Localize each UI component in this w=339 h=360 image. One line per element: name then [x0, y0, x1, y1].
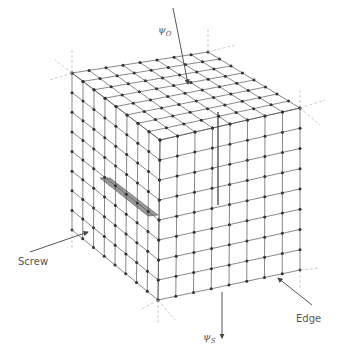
screw-label: Screw	[18, 256, 48, 267]
left-face	[71, 72, 162, 302]
edge-label: Edge	[296, 313, 321, 324]
psi-s-label: ψS	[203, 331, 216, 345]
screw-arrow	[30, 232, 88, 252]
psi-o-label: ψO	[158, 24, 172, 38]
edge-arrow	[278, 278, 312, 305]
right-face	[157, 107, 302, 302]
psi-o-arrow	[173, 8, 188, 84]
crystal-lattice	[0, 0, 339, 360]
slip-plane-shading	[100, 178, 158, 216]
dislocation-diagram: Screw Edge ψO ψS	[0, 0, 339, 360]
